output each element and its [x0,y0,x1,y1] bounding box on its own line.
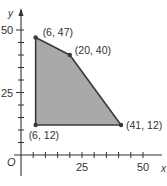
x-tick-label: 25 [76,161,88,173]
vertex-label: (6, 12) [29,129,59,141]
y-axis-label: y [7,8,14,19]
x-axis-label: x [160,163,167,174]
origin-label: O [7,156,16,168]
vertex-point [68,53,72,57]
feasible-region-chart: 25502550yxO (6, 47)(20, 40)(41, 12)(6, 1… [0,0,167,186]
y-axis-arrow-icon [19,8,24,16]
y-tick-label: 25 [1,87,13,99]
y-tick-label: 50 [1,24,13,36]
vertex-point [119,123,123,127]
vertex-point [33,123,37,127]
x-tick-label: 50 [137,161,149,173]
vertex-point [33,35,37,39]
vertex-label: (6, 47) [43,26,73,38]
vertex-label: (41, 12) [126,119,162,131]
vertex-label: (20, 40) [75,44,111,56]
